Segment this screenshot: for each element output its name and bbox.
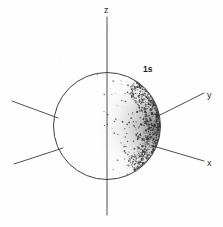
stipple-dot [142,139,143,140]
stipple-dot [148,116,149,117]
stipple-dot [153,144,154,145]
stipple-dot [142,162,144,164]
stipple-dot [139,162,140,163]
stipple-dot [141,104,142,105]
stipple-dot [151,117,152,118]
stipple-dot [140,162,141,163]
stipple-dot [137,146,138,147]
stipple-dot [133,94,135,96]
stipple-dot [131,89,133,91]
stipple-dot [145,96,146,97]
stipple-dot [154,147,155,148]
stipple-dot [138,153,139,154]
stipple-dot [142,89,143,90]
stipple-dot [132,113,133,114]
stipple-dot [157,139,158,140]
stipple-dot [134,96,135,97]
stipple-dot [153,140,154,141]
stipple-dot [127,154,129,156]
stipple-dot [156,110,157,111]
stipple-dot [140,144,141,145]
stipple-dot [123,107,124,108]
stipple-dot [134,153,135,154]
stipple-dot [149,141,151,143]
stipple-dot [151,130,152,131]
stipple-dot [144,91,145,92]
stipple-dot [148,157,149,158]
orbital-diagram-canvas: z y x 1s [0,0,223,227]
stipple-dot [148,100,149,101]
stipple-dot [147,139,148,140]
stipple-dot [146,152,147,153]
stipple-dot [156,117,158,119]
stipple-dot [137,151,138,152]
stipple-dot [154,113,155,114]
stipple-dot [134,86,135,87]
stipple-dot [150,132,151,133]
stipple-dot [138,160,139,161]
stipple-dot [135,102,136,103]
stipple-dot [151,114,152,115]
stipple-dot [155,121,156,122]
stipple-dot [144,99,145,100]
stipple-dot [137,102,138,103]
stipple-dot [148,143,150,145]
stipple-dot [136,155,137,156]
stipple-dot [142,143,143,144]
stipple-dot [148,115,149,116]
stipple-dot [152,116,153,117]
stipple-dot [138,147,140,149]
stipple-dot [145,145,147,147]
stipple-dot [115,118,117,120]
stipple-dot [145,135,146,136]
z-axis-label: z [104,5,109,15]
stipple-dot [139,164,140,165]
stipple-dot [134,164,135,165]
stipple-dot [148,96,149,97]
stipple-dot [141,153,142,154]
stipple-dot [145,116,147,118]
stipple-dot [132,84,133,85]
stipple-dot [152,100,153,101]
stipple-dot [132,164,133,165]
orbital-name-label: 1s [143,64,153,74]
stipple-dot [147,145,148,146]
stipple-dot [140,124,142,126]
stipple-dot [153,137,154,138]
stipple-dot [96,74,98,76]
stipple-dot [112,128,113,129]
stipple-dot [145,137,146,138]
stipple-dot [148,146,149,147]
stipple-dot [140,149,141,150]
stipple-dot [154,137,155,138]
stipple-dot [136,121,137,122]
stipple-dot [139,107,141,109]
stipple-dot [141,148,142,149]
stipple-dot [145,129,147,131]
stipple-dot [137,93,138,94]
stipple-dot [145,157,147,159]
stipple-dot [139,125,140,126]
stipple-dot [107,114,109,116]
stipple-dot [127,165,128,166]
stipple-dot [153,128,154,129]
stipple-dot [150,120,151,121]
stipple-dot [158,120,159,121]
stipple-dot [144,123,145,124]
stipple-dot [144,152,145,153]
stipple-dot [146,97,148,99]
stipple-dot [113,132,115,134]
stipple-dot [143,89,144,90]
stipple-dot [128,160,130,162]
stipple-dot [129,93,131,95]
stipple-dot [133,99,134,100]
stipple-dot [142,102,144,104]
stipple-dot [134,155,135,156]
stipple-dot [145,121,146,122]
stipple-dot [144,142,145,143]
stipple-dot [136,129,137,130]
stipple-dot [150,147,151,148]
stipple-dot [153,135,154,136]
stipple-dot [145,90,146,91]
stipple-dot [125,152,127,154]
